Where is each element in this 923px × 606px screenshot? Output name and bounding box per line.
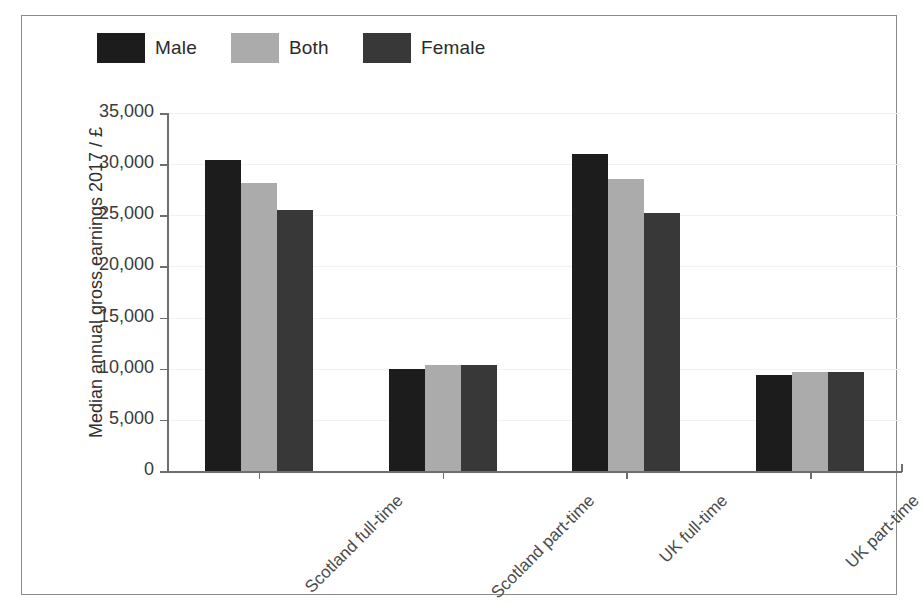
y-axis-title: Median annual gross earnings 2017 / £	[86, 93, 107, 473]
legend-swatch-female	[363, 33, 411, 63]
bar-group	[756, 113, 864, 471]
bar-both-uk-full-time[interactable]	[608, 179, 644, 471]
figure-frame: Male Both Female Median annual gross ear…	[21, 15, 897, 595]
bar-female-uk-part-time[interactable]	[828, 372, 864, 471]
legend-label-male: Male	[155, 37, 197, 59]
y-axis-tick: 5,000	[160, 420, 167, 422]
y-axis-tick-label: 10,000	[99, 357, 154, 378]
y-axis-tick: 10,000	[160, 369, 167, 371]
x-axis-line	[167, 471, 902, 473]
bar-female-uk-full-time[interactable]	[644, 213, 680, 471]
legend-item-both: Both	[231, 33, 363, 63]
bar-group	[389, 113, 497, 471]
legend-item-female: Female	[363, 33, 520, 63]
chart-legend: Male Both Female	[97, 33, 519, 63]
bar-both-scotland-part-time[interactable]	[425, 365, 461, 471]
bar-both-scotland-full-time[interactable]	[241, 183, 277, 471]
plot-area: 05,00010,00015,00020,00025,00030,00035,0…	[167, 113, 902, 471]
y-axis-tick: 0	[160, 471, 167, 473]
x-axis-tick-label: UK full-time	[656, 491, 732, 567]
y-axis-tick-label: 0	[144, 459, 154, 480]
legend-swatch-both	[231, 33, 279, 63]
y-axis-tick: 15,000	[160, 318, 167, 320]
x-axis-tick	[626, 471, 628, 479]
y-axis-tick: 25,000	[160, 215, 167, 217]
legend-item-male: Male	[97, 33, 231, 63]
y-axis-tick-label: 20,000	[99, 254, 154, 275]
bar-both-uk-part-time[interactable]	[792, 372, 828, 471]
y-axis-tick-label: 25,000	[99, 203, 154, 224]
y-axis-tick: 35,000	[160, 113, 167, 115]
y-axis-tick-label: 15,000	[99, 306, 154, 327]
y-axis-tick-label: 30,000	[99, 152, 154, 173]
bar-group	[572, 113, 680, 471]
x-axis-tick	[443, 471, 445, 479]
legend-label-both: Both	[289, 37, 329, 59]
y-axis-tick: 30,000	[160, 164, 167, 166]
bar-female-scotland-part-time[interactable]	[461, 365, 497, 471]
y-axis-line	[167, 113, 169, 471]
y-axis-tick: 20,000	[160, 266, 167, 268]
x-axis-tick-label: Scotland full-time	[301, 491, 407, 597]
bar-group	[205, 113, 313, 471]
bar-male-uk-full-time[interactable]	[572, 154, 608, 471]
bar-female-scotland-full-time[interactable]	[277, 210, 313, 471]
x-axis-tick	[810, 471, 812, 479]
legend-label-female: Female	[421, 37, 486, 59]
x-axis-end-cap	[901, 464, 903, 472]
bar-male-scotland-part-time[interactable]	[389, 369, 425, 471]
bar-male-uk-part-time[interactable]	[756, 375, 792, 471]
x-axis-tick-label: Scotland part-time	[487, 491, 599, 603]
y-axis-tick-label: 35,000	[99, 101, 154, 122]
legend-swatch-male	[97, 33, 145, 63]
x-axis-tick	[259, 471, 261, 479]
bar-male-scotland-full-time[interactable]	[205, 160, 241, 471]
x-axis-tick-label: UK part-time	[842, 491, 923, 573]
y-axis-tick-label: 5,000	[109, 408, 154, 429]
